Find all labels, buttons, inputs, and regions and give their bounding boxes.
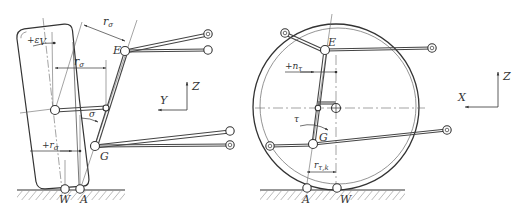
- axes-xz: Z X: [457, 70, 511, 107]
- joint-G-right: [309, 140, 318, 149]
- joint-G-left: [91, 142, 100, 151]
- mount-lower-1-right: [266, 142, 274, 150]
- label-A-left: A: [79, 193, 88, 206]
- label-ground-offset: +rσ: [42, 140, 59, 152]
- label-caster-radius: rτ,k: [314, 160, 329, 172]
- label-W-right: W: [340, 193, 353, 206]
- wheel-center-left: [51, 106, 60, 115]
- mount-upper-2-right: [428, 44, 436, 52]
- contact-W-left: [61, 185, 69, 193]
- suspension-kinematics-diagram: Z Y E G W A +εV rσ rσ σ +rσ: [0, 0, 519, 215]
- label-E-right: E: [327, 36, 336, 49]
- axis-label-z-right: Z: [502, 70, 511, 83]
- mount-lower-2-left: [226, 141, 234, 149]
- label-W-left: W: [59, 193, 72, 206]
- joint-E-left: [121, 47, 130, 56]
- label-E-left: E: [112, 44, 121, 57]
- axis-label-z-left: Z: [191, 80, 200, 93]
- kingpin-axis-left: [80, 20, 137, 190]
- joint-small-left: [103, 105, 109, 111]
- joint-small-right: [315, 105, 321, 111]
- mount-upper-1-left: [204, 30, 212, 38]
- label-caster-angle: τ: [294, 114, 300, 124]
- label-G-left: G: [100, 150, 109, 163]
- mount-lower-2-right: [443, 126, 451, 134]
- label-A-right: A: [301, 193, 310, 206]
- label-sigma-angle: σ: [89, 109, 96, 119]
- label-r-alpha-top: rσ: [103, 15, 113, 29]
- label-caster-offset: +nτ: [285, 61, 302, 73]
- axis-label-x: X: [457, 91, 467, 104]
- label-r-sigma: rσ: [74, 55, 84, 69]
- axis-label-y: Y: [160, 94, 169, 107]
- label-G-right: G: [319, 131, 328, 144]
- contact-A-right: [303, 184, 311, 192]
- contact-A-left: [76, 185, 84, 193]
- contact-W-right: [333, 184, 341, 192]
- left-front-view: Z Y E G W A +εV rσ rσ σ +rσ: [16, 15, 234, 206]
- ground-right: [260, 190, 405, 200]
- mount-upper-1-right: [281, 29, 289, 37]
- suspension-links-right: [270, 32, 447, 147]
- right-side-view: Z X E G A W +nτ τ rτ,k: [253, 14, 511, 206]
- label-camber: +εV: [27, 35, 47, 47]
- mount-upper-2-left: [204, 46, 212, 54]
- axes-yz: Z Y: [158, 80, 200, 110]
- ground-left: [17, 190, 125, 200]
- mount-lower-1-left: [226, 127, 234, 135]
